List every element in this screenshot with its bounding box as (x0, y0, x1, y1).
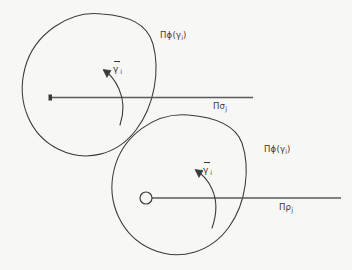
upper-basepoint-tick (49, 95, 53, 101)
upper-axis-label: Πσj (213, 102, 227, 112)
lower-tangent-arrow-curve (196, 170, 216, 228)
lower-vector-label-gamma: γ (203, 164, 208, 175)
lower-loop-circle (112, 115, 246, 255)
upper-tangent-arrowhead (103, 70, 111, 78)
upper-circle-label: Πϕ(γi) (160, 31, 187, 41)
upper-vector-label-stack: γ (113, 63, 118, 74)
lower-vector-label: γ′i (203, 163, 212, 176)
upper-circle-label-pi: Π (160, 30, 167, 40)
lower-vector-label-subscript: i (210, 169, 212, 177)
upper-vector-label-gamma: γ (113, 63, 118, 74)
lower-vector-label-stack: γ (203, 164, 208, 175)
lower-basepoint-circle (140, 192, 152, 204)
lower-circle-label-pi: Π (264, 144, 271, 154)
upper-vector-label-subscript: i (120, 68, 122, 76)
figure-canvas: Πϕ(γi) Πσj γ′i Πϕ(γi) Πρj γ′i (0, 0, 352, 270)
lower-axis-label-pi: Π (279, 202, 286, 212)
upper-axis-label-subscript: j (225, 105, 227, 113)
upper-figure-group (22, 14, 253, 156)
lower-figure-group (112, 115, 341, 255)
lower-axis-label: Πρj (279, 203, 293, 213)
lower-circle-label-close-paren: ) (287, 144, 291, 154)
upper-vector-label: γ′i (113, 62, 122, 75)
upper-loop-circle (22, 14, 156, 156)
upper-axis-label-pi: Π (213, 101, 220, 111)
lower-tangent-arrowhead (195, 170, 203, 178)
lower-axis-label-subscript: j (291, 206, 293, 214)
lower-circle-label: Πϕ(γi) (264, 145, 291, 155)
upper-circle-label-close-paren: ) (183, 30, 187, 40)
